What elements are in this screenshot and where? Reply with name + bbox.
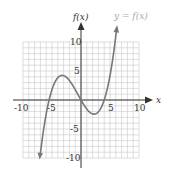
- y-axis-label: f(x): [72, 12, 89, 22]
- y-tick-label: -5: [70, 124, 79, 134]
- y-tick-label: 5: [74, 66, 80, 76]
- y-tick-label: 10: [70, 37, 82, 47]
- x-tick-label: 10: [134, 103, 146, 113]
- curve-top-arrow-icon: [114, 25, 119, 33]
- x-tick-label: 5: [108, 103, 114, 113]
- y-axis-arrow-icon: [78, 22, 85, 30]
- x-tick-label: -10: [14, 103, 29, 113]
- curve-label: y = f(x): [113, 11, 148, 21]
- x-axis-label: x: [156, 95, 161, 105]
- x-axis-arrow-icon: [145, 97, 153, 104]
- y-tick-label: -10: [66, 153, 81, 163]
- function-graph: x f(x) y = f(x) -10 -5 5 10 10 5 -5 -10: [0, 0, 170, 183]
- curve-bottom-arrow-icon: [38, 153, 43, 160]
